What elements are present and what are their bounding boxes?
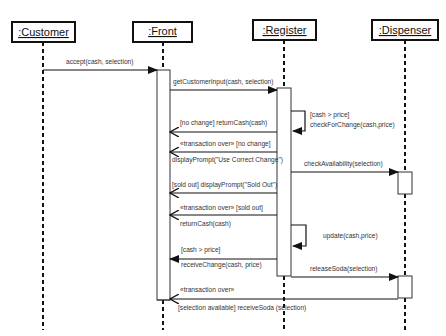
dispenser-activation-1	[398, 172, 412, 194]
register-activation	[277, 88, 291, 276]
message-transaction-over-final: «transaction over» [selection available]…	[157, 286, 398, 312]
svg-text:checkForChange(cash,price): checkForChange(cash,price)	[310, 121, 395, 129]
message-transaction-over-no-change: «transaction over» [no change] displayPr…	[170, 140, 283, 164]
message-accept: accept(cash, selection)	[43, 58, 157, 70]
front-activation	[157, 70, 170, 300]
svg-text:accept(cash, selection): accept(cash, selection)	[66, 58, 133, 66]
svg-text:checkAvailability(selection): checkAvailability(selection)	[304, 160, 383, 168]
message-transaction-over-sold-out: «transaction over» [sold out] returnCash…	[170, 204, 277, 228]
svg-text:[no change] returnCash(cash): [no change] returnCash(cash)	[180, 119, 267, 127]
svg-text:getCustomerInput(cash, selecti: getCustomerInput(cash, selection)	[173, 78, 273, 86]
message-sold-out-prompt: [sold out] displayPrompt("Sold Out")	[170, 181, 277, 193]
message-release-soda: releaseSoda(selection)	[291, 265, 398, 277]
sequence-diagram: :Customer :Front :Register :Dispenser ac…	[0, 0, 446, 336]
message-get-customer-input: getCustomerInput(cash, selection)	[170, 78, 277, 90]
svg-text:releaseSoda(selection): releaseSoda(selection)	[310, 265, 377, 273]
svg-text:returnCash(cash): returnCash(cash)	[180, 220, 231, 228]
svg-text:[selection available] receiveS: [selection available] receiveSoda (selec…	[178, 304, 306, 312]
customer-label: :Customer	[18, 26, 69, 38]
register-label: :Register	[262, 24, 306, 36]
message-check-availability: checkAvailability(selection)	[291, 160, 398, 172]
message-receive-change: [cash > price] receiveChange(cash, price…	[170, 246, 277, 269]
message-check-for-change: [cash > price] checkForChange(cash,price…	[291, 111, 395, 131]
message-update: update(cash,price)	[291, 225, 378, 246]
svg-text:update(cash,price): update(cash,price)	[323, 232, 378, 240]
message-return-cash-no-change: [no change] returnCash(cash)	[170, 119, 277, 132]
svg-text:«transaction over» [no change]: «transaction over» [no change]	[180, 140, 271, 148]
svg-text:[cash > price]: [cash > price]	[310, 111, 350, 119]
svg-text:[cash > price]: [cash > price]	[181, 246, 221, 254]
svg-text:displayPrompt("Use Correct Cha: displayPrompt("Use Correct Change")	[172, 156, 283, 164]
dispenser-label: :Dispenser	[379, 24, 432, 36]
front-label: :Front	[148, 25, 177, 37]
svg-text:[sold out] displayPrompt("Sold: [sold out] displayPrompt("Sold Out")	[172, 181, 277, 189]
svg-text:receiveChange(cash, price): receiveChange(cash, price)	[181, 261, 262, 269]
svg-text:«transaction over»: «transaction over»	[180, 286, 235, 293]
lifeline-customer: :Customer	[12, 22, 75, 330]
svg-text:«transaction over» [sold out]: «transaction over» [sold out]	[180, 204, 263, 212]
dispenser-activation-2	[398, 276, 412, 298]
